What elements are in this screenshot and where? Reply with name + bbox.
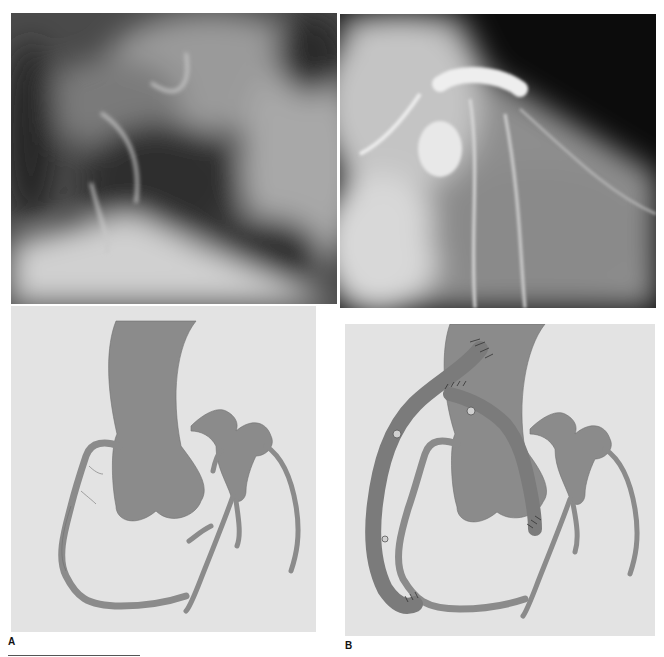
aorta xyxy=(109,321,205,521)
panel-label-a: A xyxy=(8,636,15,647)
angiogram-a xyxy=(11,13,337,304)
caption-rule xyxy=(8,655,140,656)
angiogram-b xyxy=(340,14,656,308)
schematic-bypass-grafts xyxy=(345,324,655,636)
panel-label-b: B xyxy=(345,640,352,651)
schematic-native-anatomy xyxy=(11,306,316,632)
